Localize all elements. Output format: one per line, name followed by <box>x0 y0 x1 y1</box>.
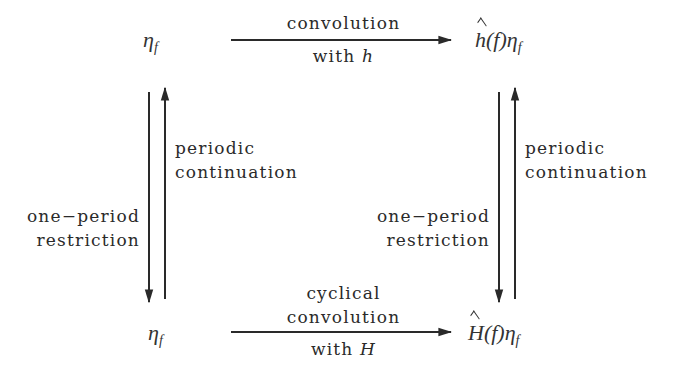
h-hat-symbol: h <box>475 27 486 53</box>
bottom-edge-label-line2: convolution <box>231 305 456 329</box>
with-text: with <box>313 46 362 66</box>
eta-symbol: η <box>143 27 154 52</box>
var-H: H <box>360 339 376 359</box>
left-down-label-line2: restriction <box>0 228 140 252</box>
arg-f: (f) <box>484 320 505 345</box>
right-down-label-line1: one−period <box>350 204 490 228</box>
eta-symbol: η <box>507 27 518 52</box>
node-bottom-left: ηf <box>148 320 163 349</box>
subscript-f: f <box>154 40 158 55</box>
node-bottom-right: H(f)ηf <box>468 320 519 349</box>
eta-symbol: η <box>148 320 159 345</box>
arg-f: (f) <box>486 27 507 52</box>
left-up-label-line1: periodic <box>175 136 255 160</box>
subscript-f: f <box>518 40 522 55</box>
top-edge-label-line1: convolution <box>231 11 456 35</box>
subscript-f: f <box>516 333 520 348</box>
node-top-right: h(f)ηf <box>475 27 522 56</box>
node-top-left: ηf <box>143 27 158 56</box>
right-up-label-line1: periodic <box>525 136 605 160</box>
var-h: h <box>362 46 374 66</box>
left-up-label-line2: continuation <box>175 160 298 184</box>
right-down-label-line2: restriction <box>350 228 490 252</box>
right-up-label-line2: continuation <box>525 160 648 184</box>
top-edge-label-line2: with h <box>231 44 456 68</box>
left-down-label-line1: one−period <box>0 204 140 228</box>
H-hat-symbol: H <box>468 320 484 346</box>
subscript-f: f <box>159 333 163 348</box>
eta-symbol: η <box>505 320 516 345</box>
bottom-edge-label-line3: with H <box>231 337 456 361</box>
with-text: with <box>311 339 360 359</box>
bottom-edge-label-line1: cyclical <box>231 281 456 305</box>
